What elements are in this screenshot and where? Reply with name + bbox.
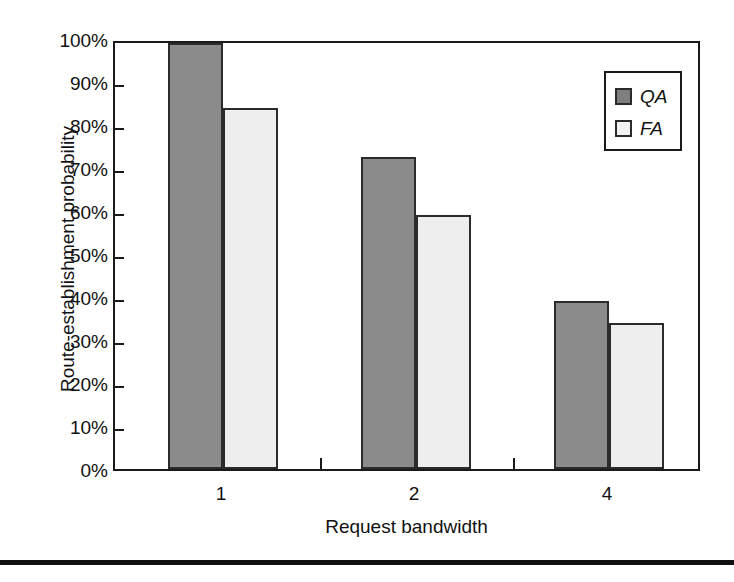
bar-fa-1 [223,108,278,469]
y-axis-tick-labels: 100%90%80%70%60%50%40%30%20%10%0% [36,0,108,582]
x-axis-category-label: 1 [181,483,261,505]
y-axis-tick-mark [115,257,124,259]
x-axis-title: Request bandwidth [113,516,700,538]
x-axis-category-label: 4 [567,483,647,505]
y-axis-tick-mark [115,429,124,431]
y-axis-tick-label: 30% [38,331,108,353]
y-axis-tick-label: 10% [38,417,108,439]
bar-qa-4 [554,301,609,469]
legend-item-fa[interactable]: FA [615,112,680,144]
y-axis-tick-mark [115,85,124,87]
y-axis-tick-mark [115,128,124,130]
x-axis-tick-mark [513,458,515,469]
y-axis-tick-label: 50% [38,245,108,267]
legend-swatch-qa-icon [615,88,632,105]
y-axis-tick-mark [115,214,124,216]
y-axis-tick-label: 20% [38,374,108,396]
y-axis-tick-label: 100% [38,30,108,52]
bottom-rule-divider [0,560,734,565]
legend-label: FA [640,119,663,138]
x-axis-category-label: 2 [374,483,454,505]
legend-label: QA [640,87,667,106]
y-axis-tick-label: 0% [38,460,108,482]
legend: QAFA [604,71,682,151]
x-axis-tick-mark [320,458,322,469]
y-axis-tick-label: 70% [38,159,108,181]
y-axis-tick-label: 60% [38,202,108,224]
y-axis-tick-mark [115,386,124,388]
bar-fa-4 [609,323,664,469]
legend-swatch-fa-icon [615,120,632,137]
y-axis-tick-mark [115,343,124,345]
legend-item-qa[interactable]: QA [615,80,680,112]
y-axis-tick-label: 40% [38,288,108,310]
y-axis-tick-label: 80% [38,116,108,138]
bar-qa-1 [168,43,223,469]
y-axis-tick-mark [115,300,124,302]
bar-fa-2 [416,215,471,469]
bar-qa-2 [361,157,416,469]
bar-chart-figure: Route-establishment probability 100%90%8… [0,0,734,582]
y-axis-tick-label: 90% [38,73,108,95]
y-axis-tick-mark [115,171,124,173]
